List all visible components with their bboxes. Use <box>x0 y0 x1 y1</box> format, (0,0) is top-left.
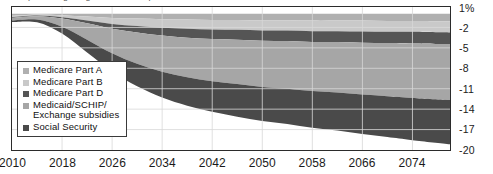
y-tick-label: -20 <box>459 145 475 155</box>
legend-swatch-icon <box>23 103 29 109</box>
x-tick-label: 2066 <box>349 156 376 170</box>
y-tick-label: -14 <box>459 104 475 114</box>
y-tick-label: -2 <box>459 23 469 33</box>
legend-item: Medicare Part D <box>22 88 122 99</box>
legend-item: Medicaid/SCHIP/ Exchange subsidies <box>22 100 122 121</box>
y-tick-label: -11 <box>459 84 474 94</box>
x-tick-label: 2050 <box>249 156 276 170</box>
x-axis-labels: 201020182026203420422050205820662074 <box>0 155 455 174</box>
y-tick-label: -8 <box>459 63 469 73</box>
legend-swatch-icon <box>23 125 29 131</box>
y-tick-label: -17 <box>459 124 475 134</box>
y-tick-label: -5 <box>459 43 469 53</box>
legend-item-label: Medicare Part D <box>33 88 103 99</box>
y-tick-label: 1% <box>459 3 475 13</box>
cut-off-title: percentage of gross domestic product <box>28 0 448 1</box>
x-tick-label: 2058 <box>299 156 326 170</box>
x-tick-label: 2018 <box>49 156 76 170</box>
legend-swatch-icon <box>23 68 29 74</box>
x-tick-label: 2010 <box>0 156 26 170</box>
x-tick-label: 2026 <box>99 156 126 170</box>
legend-swatch-icon <box>23 91 29 97</box>
legend-item-label: Social Security <box>33 122 97 133</box>
legend-item: Medicare Part A <box>22 65 122 76</box>
legend-item: Medicare Part B <box>22 77 122 88</box>
legend-item-label: Medicare Part B <box>33 77 103 88</box>
x-tick-label: 2042 <box>199 156 226 170</box>
y-axis-labels: 1%-2-5-8-11-14-17-20 <box>455 0 493 160</box>
legend-item: Social Security <box>22 122 122 133</box>
x-tick-label: 2034 <box>149 156 176 170</box>
legend-swatch-icon <box>23 80 29 86</box>
legend-item-label: Medicare Part A <box>33 65 102 76</box>
x-tick-label: 2074 <box>398 156 425 170</box>
legend-item-label: Medicaid/SCHIP/ Exchange subsidies <box>33 100 119 121</box>
chart-legend: Medicare Part AMedicare Part BMedicare P… <box>17 61 127 137</box>
